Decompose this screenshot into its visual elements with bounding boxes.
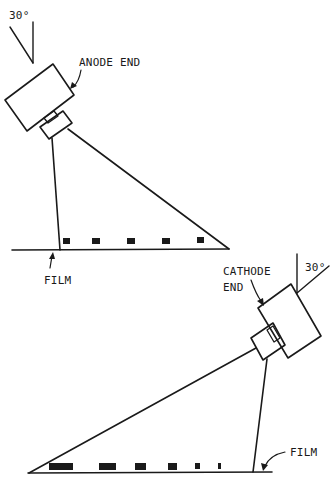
angle-label-bottom: 30° [305, 261, 325, 274]
image-mark [197, 237, 204, 243]
heel-effect-diagram: 30° ANODE END FILM [0, 0, 334, 482]
film-arrowhead-icon-top [49, 252, 55, 259]
xray-tube-housing-top [5, 64, 74, 131]
image-mark [127, 238, 135, 244]
image-mark [63, 238, 70, 244]
image-mark [99, 463, 116, 470]
film-arrow-shaft-bottom [265, 452, 285, 466]
image-mark [162, 238, 170, 244]
cathode-end-arrow-shaft [251, 280, 261, 301]
image-mark [49, 463, 73, 470]
anode-end-label: ANODE END [79, 56, 140, 69]
image-mark [218, 463, 221, 469]
film-line-bottom [28, 472, 272, 473]
image-mark [168, 463, 177, 470]
xray-tube-housing-bottom [258, 284, 321, 358]
beam-edge-left-top [52, 138, 60, 250]
angle-label-top: 30° [9, 9, 29, 22]
image-marks-top [63, 237, 204, 244]
image-mark [135, 463, 146, 470]
angle-indicator-bottom: 30° [297, 254, 329, 293]
cathode-label-line2: END [223, 281, 243, 294]
collimator-top [40, 111, 72, 139]
angle-diagonal-line-top [10, 27, 33, 63]
film-label-top: FILM [44, 274, 71, 287]
film-line-top [12, 249, 229, 250]
film-arrowhead-icon-bottom [261, 463, 268, 471]
film-label-bottom: FILM [290, 446, 317, 459]
collimator-bottom [251, 323, 285, 360]
tube-port-connector-top [44, 111, 58, 123]
beam-edge-left-bottom [29, 348, 256, 473]
image-marks-bottom [49, 463, 221, 470]
image-mark [195, 463, 200, 469]
beam-edge-right-top [68, 129, 229, 249]
angle-indicator-top: 30° [9, 9, 33, 63]
image-mark [92, 238, 100, 244]
cathode-label-line1: CATHODE [223, 265, 271, 278]
top-panel: 30° ANODE END FILM [5, 9, 229, 287]
beam-edge-right-bottom [253, 359, 267, 472]
bottom-panel: 30° CATHODE END FILM [28, 254, 329, 473]
